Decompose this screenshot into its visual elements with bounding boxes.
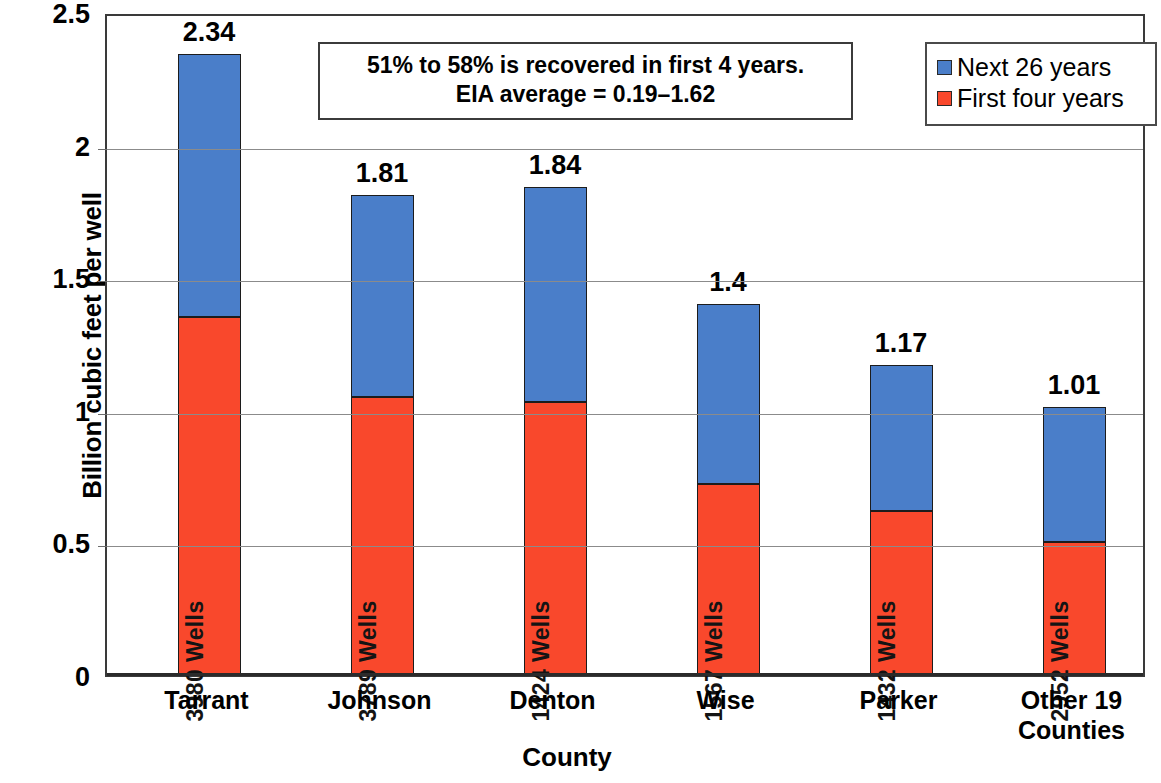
bar-total-label: 1.81 (356, 160, 409, 187)
x-axis-label: Denton (463, 686, 643, 716)
x-axis-label-line: Denton (463, 686, 643, 716)
bar-group[interactable]: 3980 Wells (178, 54, 241, 675)
legend-item[interactable]: First four years (937, 83, 1145, 114)
bar-segment-next-26-years[interactable] (351, 195, 414, 397)
annotation-box: 51% to 58% is recovered in first 4 years… (318, 42, 853, 120)
x-axis-label: Other 19Counties (982, 686, 1161, 745)
y-tick-mark (98, 414, 107, 415)
bar-total-label: 2.34 (183, 19, 236, 46)
bar-segment-next-26-years[interactable] (870, 365, 933, 511)
x-axis-label-line: Wise (636, 686, 816, 716)
gridline (107, 281, 1143, 282)
bar-segment-next-26-years[interactable] (524, 187, 587, 402)
bar-group[interactable]: 2952 Wells (1043, 407, 1106, 675)
gridline (107, 414, 1143, 415)
bar-total-label: 1.84 (529, 152, 582, 179)
annotation-line-2: EIA average = 0.19–1.62 (328, 80, 843, 109)
legend: Next 26 yearsFirst four years (925, 42, 1157, 126)
y-tick-label: 0 (0, 664, 90, 691)
gridline (107, 149, 1143, 150)
x-axis-label-line: Parker (809, 686, 989, 716)
y-tick-mark (98, 149, 107, 150)
bar-total-label: 1.4 (709, 269, 747, 296)
y-axis-tick-labels: 00.511.522.5 (0, 0, 90, 783)
bar-total-label: 1.17 (875, 330, 928, 357)
bar-group[interactable]: 3789 Wells (351, 195, 414, 675)
legend-swatch-icon (937, 60, 952, 75)
gridline (107, 546, 1143, 547)
x-axis-label: Johnson (290, 686, 470, 716)
bar-segment-next-26-years[interactable] (1043, 407, 1106, 542)
legend-label: Next 26 years (957, 55, 1111, 80)
bar-group[interactable]: 1567 Wells (697, 304, 760, 675)
y-tick-label: 1.5 (0, 266, 90, 293)
bar-segment-next-26-years[interactable] (697, 304, 760, 484)
x-axis-line (107, 673, 1143, 676)
legend-item[interactable]: Next 26 years (937, 52, 1145, 83)
x-axis-label: Parker (809, 686, 989, 716)
bar-segment-next-26-years[interactable] (178, 54, 241, 317)
x-axis-title: County (0, 742, 1134, 773)
x-axis-label-line: Other 19 (982, 686, 1161, 716)
y-tick-label: 0.5 (0, 531, 90, 558)
legend-swatch-icon (937, 91, 952, 106)
annotation-line-1: 51% to 58% is recovered in first 4 years… (328, 51, 843, 80)
legend-label: First four years (957, 86, 1124, 111)
x-axis-label: Wise (636, 686, 816, 716)
y-tick-label: 2.5 (0, 1, 90, 28)
x-axis-label-line: Johnson (290, 686, 470, 716)
bar-total-label: 1.01 (1048, 372, 1101, 399)
y-tick-mark (98, 281, 107, 282)
bar-group[interactable]: 1424 Wells (524, 187, 587, 675)
x-axis-label-line: Counties (982, 716, 1161, 746)
x-axis-label: Tarrant (117, 686, 297, 716)
y-tick-label: 1 (0, 398, 90, 425)
y-tick-mark (98, 546, 107, 547)
y-tick-label: 2 (0, 133, 90, 160)
bar-group[interactable]: 1432 Wells (870, 365, 933, 675)
x-axis-label-line: Tarrant (117, 686, 297, 716)
